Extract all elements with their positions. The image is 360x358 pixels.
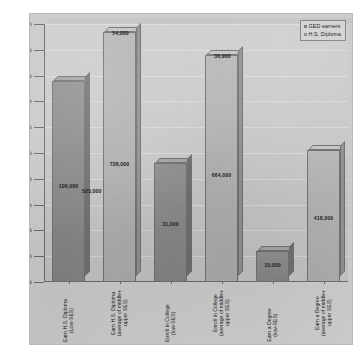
y-axis-tick-label: 50% — [29, 150, 32, 156]
y-axis-tick — [34, 205, 44, 206]
gridline — [44, 50, 348, 51]
bar-side-face — [136, 23, 141, 276]
y-axis-tick — [34, 179, 44, 180]
bar-side-face — [238, 46, 243, 276]
x-axis-category-text: Enroll in College (low-SES) — [164, 304, 176, 342]
y-axis-tick-label: 40% — [29, 176, 32, 182]
y-axis-tick — [34, 127, 44, 128]
bar-side-face — [85, 72, 90, 276]
legend-item-hs-diploma: H.S. Diploma — [304, 31, 341, 37]
legend-swatch-icon — [304, 33, 307, 36]
x-axis-category-label: Earn a Degree (average of middle+ upper … — [304, 284, 343, 342]
x-axis-category-label: Enroll in College (average of middle+ up… — [202, 284, 241, 342]
bar-top-value-label: 36,900 — [214, 53, 230, 59]
bar-value-label: 728,000 — [110, 161, 129, 167]
x-axis-category-text: Enroll in College (average of middle+ up… — [212, 284, 230, 342]
bar-top-face — [257, 246, 293, 251]
x-axis-category-label: Earn H.S. Diploma (average of middle+ up… — [100, 284, 139, 342]
bar-4[interactable] — [205, 55, 238, 282]
x-axis-category-text: Earn H.S. Diploma (average of middle+ up… — [110, 284, 128, 342]
y-axis-tick-label: 80% — [29, 73, 32, 79]
bar-top-face — [308, 145, 344, 150]
bar-side-face — [187, 154, 192, 276]
y-axis-line — [44, 24, 45, 282]
legend-item-ged-earners: GED earners — [304, 23, 341, 29]
bar-front-face — [53, 82, 84, 281]
y-axis-tick-label: 100% — [29, 21, 32, 27]
bar-side-face — [289, 242, 294, 276]
y-axis-tick — [34, 24, 44, 25]
bar-top-value-label: 54,000 — [112, 30, 128, 36]
bar-body[interactable] — [205, 55, 238, 282]
bar-value-label: 10,000 — [264, 262, 280, 268]
bar-1[interactable] — [52, 81, 85, 282]
legend-label-hs-diploma: H.S. Diploma — [309, 31, 341, 37]
bar-value-label: 418,000 — [314, 215, 333, 221]
bar-body[interactable] — [52, 81, 85, 282]
plot-area: 100%90%80%70%60%50%40%30%20%10%0% 523,00… — [29, 13, 353, 345]
bar-side-face — [340, 141, 345, 276]
y-axis-tick — [34, 282, 44, 283]
y-axis-tick-label: 70% — [29, 98, 32, 104]
y-axis-tick — [34, 230, 44, 231]
x-axis-category-text: Earn a Degree (average of middle+ upper … — [314, 284, 332, 342]
y-axis-tick-label: 0% — [29, 279, 32, 285]
y-axis-tick — [34, 101, 44, 102]
bar-front-face — [206, 56, 237, 281]
y-axis-tick — [34, 76, 44, 77]
y-axis-tick — [34, 153, 44, 154]
y-axis-tick-label: 90% — [29, 47, 32, 53]
y-axis-tick-label: 10% — [29, 253, 32, 259]
bar-front-face — [104, 33, 135, 281]
x-axis-line — [44, 281, 348, 282]
x-axis-category-label: Enroll in College (low-SES) — [151, 284, 190, 342]
chart-legend: GED earners H.S. Diploma — [300, 20, 346, 41]
bar-top-face — [53, 76, 89, 81]
y-axis-tick — [34, 256, 44, 257]
bar-chart: 100%90%80%70%60%50%40%30%20%10%0% 523,00… — [0, 0, 360, 358]
legend-label-ged-earners: GED earners — [309, 23, 341, 29]
bar-value-label: 664,000 — [212, 172, 231, 178]
x-axis-category-text: Earn a Degree (low-SES) — [266, 308, 278, 342]
legend-swatch-icon — [304, 25, 307, 28]
y-axis-tick-label: 60% — [29, 124, 32, 130]
x-axis-category-label: Earn H.S. Diploma (Low-SES) — [49, 284, 88, 342]
bar-top-face — [155, 158, 191, 163]
x-axis-category-text: Earn H.S. Diploma (Low-SES) — [62, 299, 74, 342]
bar-value-label: 31,000 — [162, 221, 178, 227]
bar-value-label: 106,000 — [59, 183, 78, 189]
x-axis-category-label: Earn a Degree (low-SES) — [253, 284, 292, 342]
bar-2[interactable] — [103, 32, 136, 282]
annotation-low-ses-diploma: 523,000 — [82, 188, 101, 194]
y-axis-tick — [34, 50, 44, 51]
y-axis-tick-label: 20% — [29, 227, 32, 233]
y-axis-tick-label: 30% — [29, 202, 32, 208]
bar-body[interactable] — [103, 32, 136, 282]
